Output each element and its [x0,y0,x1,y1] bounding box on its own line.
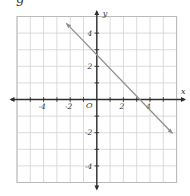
x-axis-left-arrow-icon [10,97,15,102]
x-axis-right-arrow-icon [181,97,186,102]
x-tick-label: 2 [119,102,125,111]
plotted-line [66,23,172,133]
y-tick-label: 4 [87,29,93,38]
graph-figure: g -4-22442-2-4yxO [0,0,190,196]
y-tick-label: -4 [85,162,93,171]
origin-label: O [86,101,93,110]
x-tick-label: -2 [65,102,73,111]
y-axis-up-arrow-icon [94,10,99,15]
y-tick-label: 2 [87,62,93,71]
x-axis-label: x [181,87,186,96]
x-tick-label: -4 [38,102,46,111]
coordinate-grid: -4-22442-2-4yxO [0,0,190,196]
y-axis-down-arrow-icon [94,186,99,191]
y-tick-label: -2 [85,128,93,137]
y-axis-label: y [102,9,108,18]
